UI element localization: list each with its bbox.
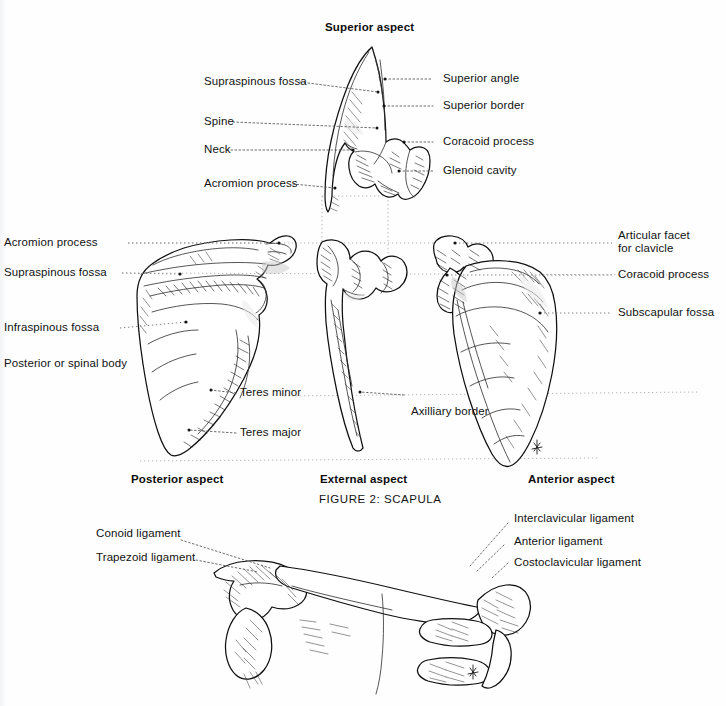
- label-superior-border: Superior border: [443, 99, 524, 112]
- clavicle-drawing: [214, 561, 530, 694]
- superior-leaders-left: [227, 82, 380, 190]
- scapula-anterior-drawing: [434, 236, 557, 467]
- label-coracoid-process-anterior: Coracoid process: [618, 268, 709, 281]
- scapula-posterior-drawing: [137, 236, 296, 456]
- scapula-external-drawing: [317, 240, 407, 451]
- label-posterior-or-spinal-body: Posterior or spinal body: [4, 357, 127, 370]
- label-conoid-ligament: Conoid ligament: [96, 527, 181, 540]
- posterior-leaders: [120, 241, 700, 461]
- label-costoclavicular-ligament: Costoclavicular ligament: [514, 556, 641, 569]
- clavicle-leaders: [181, 523, 508, 578]
- heading-anterior-aspect: Anterior aspect: [528, 473, 615, 485]
- label-acromion-process-superior: Acromion process: [204, 177, 298, 190]
- superior-leaders-right: [383, 78, 434, 173]
- anatomy-artwork: [0, 0, 726, 706]
- label-coracoid-process-superior: Coracoid process: [443, 135, 534, 148]
- artist-signature-mark-bottom: [468, 665, 478, 679]
- label-teres-minor: Teres minor: [240, 386, 301, 399]
- label-teres-major: Teres major: [240, 426, 301, 439]
- artist-signature-mark: [532, 440, 542, 454]
- label-supraspinous-fossa-superior: Supraspinous fossa: [204, 75, 307, 88]
- heading-superior-aspect: Superior aspect: [325, 21, 414, 33]
- heading-external-aspect: External aspect: [320, 473, 407, 485]
- label-neck-superior: Neck: [204, 143, 231, 156]
- label-acromion-process-posterior: Acromion process: [4, 236, 98, 249]
- label-anterior-ligament: Anterior ligament: [514, 535, 603, 548]
- anterior-leaders: [445, 241, 612, 314]
- projection-guides: [322, 196, 388, 262]
- label-trapezoid-ligament: Trapezoid ligament: [96, 551, 195, 564]
- label-spine-superior: Spine: [204, 115, 234, 128]
- label-infraspinous-fossa: Infraspinous fossa: [4, 321, 99, 334]
- label-interclavicular-ligament: Interclavicular ligament: [514, 512, 634, 525]
- label-articular-facet-for-clavicle-line1: Articular facet: [618, 229, 690, 242]
- label-articular-facet-for-clavicle-line2: for clavicle: [618, 242, 674, 255]
- figure-caption: FIGURE 2: SCAPULA: [319, 493, 441, 505]
- scapula-superior-drawing: [325, 47, 430, 212]
- heading-posterior-aspect: Posterior aspect: [131, 473, 224, 485]
- label-glenoid-cavity: Glenoid cavity: [443, 164, 517, 177]
- external-leaders: [359, 391, 405, 396]
- label-supraspinous-fossa-posterior: Supraspinous fossa: [4, 266, 107, 279]
- figure-page: Superior aspect Supraspinous fossa Spine…: [0, 0, 726, 706]
- label-superior-angle: Superior angle: [443, 72, 519, 85]
- label-subscapular-fossa: Subscapular fossa: [618, 306, 714, 319]
- label-axilliary-border: Axilliary border: [411, 405, 489, 418]
